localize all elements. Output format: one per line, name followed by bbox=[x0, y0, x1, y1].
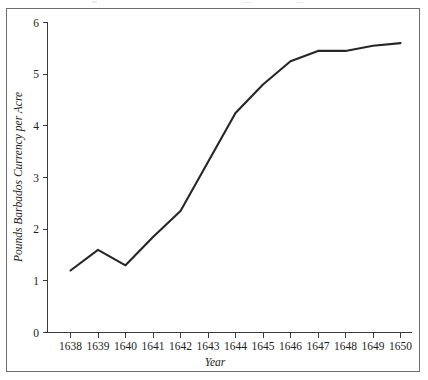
x-tick-label: 1643 bbox=[197, 340, 220, 352]
chart-page: 6 5 4 3 2 1 0 bbox=[0, 0, 428, 380]
data-series-line bbox=[71, 43, 401, 270]
x-axis-title: Year bbox=[205, 356, 226, 368]
y-axis-title: Pounds Barbados Currency per Acre bbox=[12, 92, 25, 263]
x-tick-marks bbox=[71, 333, 401, 339]
y-tick-label: 1 bbox=[33, 275, 39, 287]
plot-area: 6 5 4 3 2 1 0 bbox=[0, 0, 428, 380]
x-tick-label: 1646 bbox=[279, 340, 302, 352]
y-tick-label: 3 bbox=[33, 172, 39, 184]
y-tick-label: 6 bbox=[33, 17, 39, 29]
y-tick-label: 0 bbox=[33, 327, 39, 339]
x-tick-label: 1641 bbox=[142, 340, 165, 352]
line-chart: 6 5 4 3 2 1 0 bbox=[0, 0, 428, 380]
y-tick-marks bbox=[43, 23, 48, 333]
x-tick-label: 1648 bbox=[334, 340, 357, 352]
y-tick-label: 5 bbox=[33, 68, 39, 80]
x-tick-label: 1640 bbox=[114, 340, 137, 352]
x-tick-label: 1638 bbox=[59, 340, 82, 352]
x-tick-label: 1644 bbox=[224, 340, 247, 352]
y-tick-label: 4 bbox=[33, 120, 39, 132]
x-tick-label: 1645 bbox=[252, 340, 275, 352]
x-tick-labels: 1638 1639 1640 1641 1642 1643 1644 1645 … bbox=[59, 340, 412, 352]
x-tick-label: 1639 bbox=[87, 340, 110, 352]
x-tick-label: 1649 bbox=[362, 340, 385, 352]
x-tick-label: 1650 bbox=[389, 340, 412, 352]
x-tick-label: 1642 bbox=[169, 340, 192, 352]
x-tick-label: 1647 bbox=[307, 340, 330, 352]
y-tick-labels: 6 5 4 3 2 1 0 bbox=[33, 17, 39, 339]
y-tick-label: 2 bbox=[33, 223, 39, 235]
